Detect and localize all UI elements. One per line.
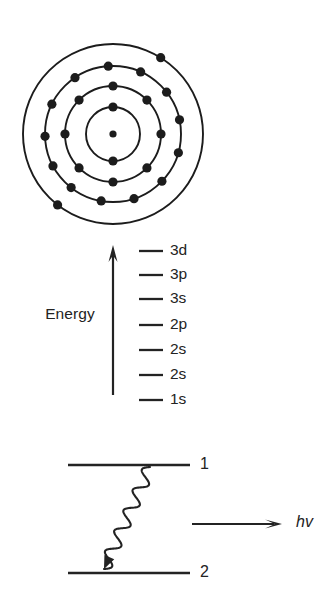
electron-shell1-1 xyxy=(108,102,117,111)
energy-level-1s-7: 1s xyxy=(139,390,186,407)
electron-shell2-2 xyxy=(142,95,151,104)
electron-shell3-2 xyxy=(136,67,145,76)
energy-level-3s-3: 3s xyxy=(139,289,186,306)
electron-shell3-4 xyxy=(175,115,184,124)
photon-arrow xyxy=(192,520,282,529)
electron-shell2-7 xyxy=(60,129,69,138)
electron-shell2-6 xyxy=(74,163,83,172)
electron-shell3-9 xyxy=(67,183,76,192)
figure-root: Energy 3d3p3s2p2s2s1s 12 hv xyxy=(0,0,331,609)
electron-shell4-2 xyxy=(53,200,62,209)
electron-shell2-4 xyxy=(142,163,151,172)
energy-level-label: 3d xyxy=(170,241,187,258)
electron-shell3-13 xyxy=(70,73,79,82)
electron-shell4-1 xyxy=(156,53,165,62)
photon-energy-label: hv xyxy=(296,513,314,530)
energy-level-label: 2p xyxy=(170,315,187,332)
electron-shell3-8 xyxy=(97,196,106,205)
electron-shell3-7 xyxy=(129,194,138,203)
state-label: 2 xyxy=(200,563,209,580)
energy-axis-label: Energy xyxy=(45,305,95,322)
energy-level-label: 2s xyxy=(170,365,186,382)
energy-level-label: 3s xyxy=(170,289,186,306)
state-label: 1 xyxy=(200,455,209,472)
electron-shell2-5 xyxy=(108,177,117,186)
electron-shell3-3 xyxy=(162,88,171,97)
energy-state-lines: 12 xyxy=(68,455,209,580)
electron-shell3-10 xyxy=(48,161,57,170)
energy-level-3p-2: 3p xyxy=(139,265,187,282)
energy-level-diagram: Energy 3d3p3s2p2s2s1s xyxy=(45,241,187,407)
atomic-structure-figure: Energy 3d3p3s2p2s2s1s 12 hv xyxy=(0,0,331,609)
energy-level-2s-6: 2s xyxy=(139,365,186,382)
energy-axis-arrow xyxy=(109,245,118,395)
electron-transition-wavy-arrow xyxy=(104,467,150,569)
energy-state-2: 2 xyxy=(68,563,209,580)
energy-level-2p-4: 2p xyxy=(139,315,187,332)
electron-shell3-12 xyxy=(47,100,56,109)
energy-level-2s-5: 2s xyxy=(139,340,186,357)
electron-shell3-5 xyxy=(174,148,183,157)
photon-emission-diagram: 12 hv xyxy=(68,455,314,580)
electron-shell3-1 xyxy=(104,62,113,71)
bohr-atom-diagram xyxy=(23,44,203,224)
electron-shell2-3 xyxy=(156,129,165,138)
nucleus-dot xyxy=(109,130,116,137)
energy-level-3d-1: 3d xyxy=(139,241,187,258)
energy-level-label: 2s xyxy=(170,340,186,357)
electron-shell2-1 xyxy=(108,81,117,90)
electron-shell2-8 xyxy=(74,95,83,104)
energy-state-1: 1 xyxy=(68,455,209,472)
energy-level-label: 1s xyxy=(170,390,186,407)
electron-shell1-2 xyxy=(108,156,117,165)
energy-level-label: 3p xyxy=(170,265,187,282)
orbital-energy-levels: 3d3p3s2p2s2s1s xyxy=(139,241,187,407)
electron-shell3-6 xyxy=(157,177,166,186)
electron-shell3-11 xyxy=(40,132,49,141)
